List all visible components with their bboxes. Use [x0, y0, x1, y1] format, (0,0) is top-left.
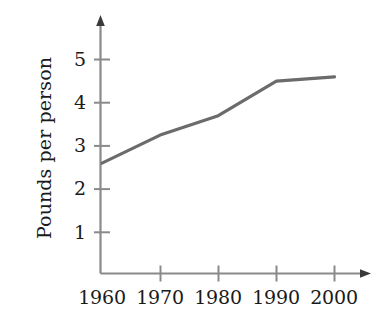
x-tick-label-1970: 1970	[129, 288, 191, 307]
x-tick-label-1960: 1960	[71, 288, 133, 307]
x-axis	[101, 269, 372, 278]
y-tick-label-3: 3	[64, 136, 86, 155]
y-axis	[96, 15, 105, 274]
data-line-series-1	[102, 77, 335, 163]
y-tick-label-2: 2	[64, 179, 86, 198]
y-tick-label-1: 1	[64, 223, 86, 242]
y-tick-label-4: 4	[64, 93, 86, 112]
x-tick-label-2000: 2000	[303, 288, 365, 307]
line-chart-plot	[0, 0, 388, 319]
y-tick-label-5: 5	[64, 50, 86, 69]
x-tick-label-1990: 1990	[245, 288, 307, 307]
chart-figure: Pounds per person 5 4 3 2 1 1960 1970 19…	[0, 0, 388, 319]
x-tick-label-1980: 1980	[187, 288, 249, 307]
y-axis-ticks	[94, 60, 110, 233]
